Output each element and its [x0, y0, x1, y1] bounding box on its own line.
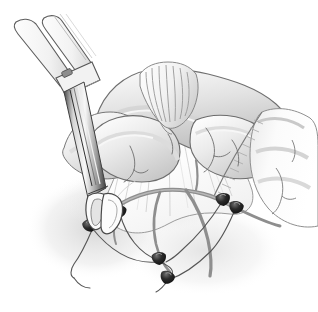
illustration-canvas	[0, 0, 318, 312]
surgical-illustration: Laparoscopic bowel resection with mesent…	[0, 0, 318, 312]
